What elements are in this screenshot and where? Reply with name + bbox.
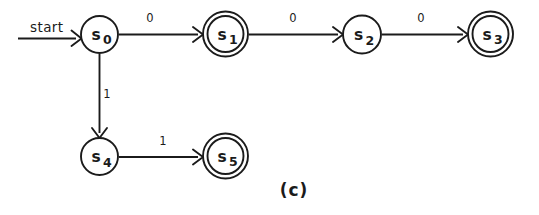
transition-s2-s3-label: 0 (417, 11, 424, 25)
start-arrow-group: start (18, 19, 82, 46)
state-s3-label: s (482, 26, 491, 44)
state-s3-subscript: 3 (494, 32, 503, 47)
state-node-s4[interactable]: s 4 (81, 138, 118, 175)
state-s1-subscript: 1 (229, 32, 238, 47)
transition-s2-s3: 0 (382, 11, 468, 42)
transition-s4-s5-label: 1 (159, 134, 166, 148)
fsm-canvas: start 0 0 0 1 1 (0, 0, 539, 215)
state-s2-label: s (354, 26, 363, 44)
state-node-s2[interactable]: s 2 (343, 16, 381, 54)
state-node-s5[interactable]: s 5 (203, 134, 248, 179)
transition-s0-s1: 0 (119, 11, 203, 42)
state-s5-subscript: 5 (229, 154, 238, 169)
state-node-s1[interactable]: s 1 (203, 12, 248, 57)
start-label: start (30, 19, 63, 35)
state-s2-subscript: 2 (366, 33, 375, 48)
state-node-s0[interactable]: s 0 (81, 16, 118, 53)
transition-s1-s2-label: 0 (289, 11, 296, 25)
state-s1-label: s (217, 26, 226, 44)
transition-s1-s2: 0 (249, 11, 343, 42)
state-node-s3[interactable]: s 3 (468, 12, 513, 57)
state-s0-label: s (91, 26, 100, 44)
state-s4-subscript: 4 (103, 155, 112, 170)
state-s5-label: s (217, 148, 226, 166)
state-s0-subscript: 0 (103, 32, 112, 47)
transition-s4-s5: 1 (119, 134, 203, 165)
fsm-diagram: start 0 0 0 1 1 (0, 0, 539, 215)
transition-s0-s4: 1 (92, 54, 111, 138)
state-s4-label: s (91, 148, 100, 166)
transition-s0-s1-label: 0 (146, 11, 153, 25)
transition-s0-s4-label: 1 (103, 87, 110, 101)
figure-caption: (c) (280, 180, 309, 200)
